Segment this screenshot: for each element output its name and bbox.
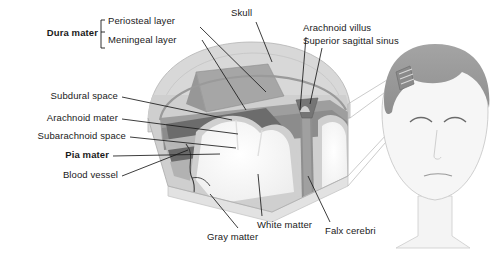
label-pia-mater: Pia mater xyxy=(0,149,109,160)
neck-shape xyxy=(396,196,470,248)
anatomy-illustration xyxy=(0,0,491,254)
label-arachnoid-villus: Arachnoid villus xyxy=(303,22,371,33)
label-skull: Skull xyxy=(231,7,252,18)
cranial-block xyxy=(140,42,355,222)
diagram-canvas: Dura mater Periosteal layer Meningeal la… xyxy=(0,0,491,254)
label-subdural-space: Subdural space xyxy=(0,90,118,101)
label-arachnoid-mater: Arachnoid mater xyxy=(0,112,118,123)
label-gray-matter: Gray matter xyxy=(207,231,258,242)
label-falx-cerebri: Falx cerebri xyxy=(325,225,376,236)
label-white-matter: White matter xyxy=(257,219,312,230)
label-blood-vessel: Blood vessel xyxy=(0,169,118,180)
label-superior-sagittal-sinus: Superior sagittal sinus xyxy=(303,35,399,46)
label-subarachnoid-space: Subarachnoid space xyxy=(0,130,126,141)
head-illustration xyxy=(382,44,489,248)
label-dura-mater: Dura mater xyxy=(0,27,98,38)
label-meningeal-layer: Meningeal layer xyxy=(108,34,177,45)
label-periosteal-layer: Periosteal layer xyxy=(108,15,175,26)
white-matter-left xyxy=(196,121,294,204)
dura-mater-bracket xyxy=(101,20,105,48)
